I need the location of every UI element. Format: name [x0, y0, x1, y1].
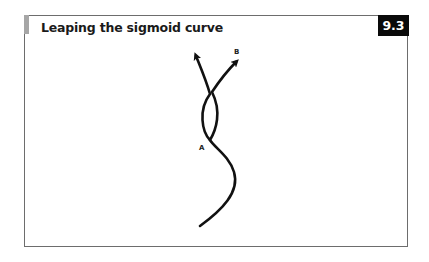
sigmoid-curve-a — [196, 56, 210, 140]
sigmoid-diagram: A B — [0, 0, 429, 262]
sigmoid-curve-b — [200, 62, 236, 226]
label-a: A — [199, 144, 205, 152]
label-b: B — [234, 48, 239, 56]
